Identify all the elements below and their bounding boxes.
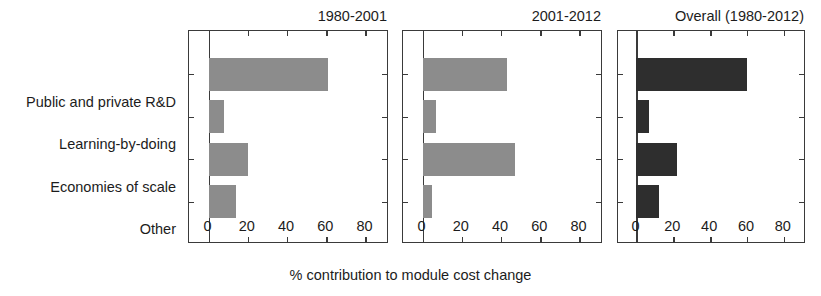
y-tick [617, 202, 623, 203]
panel-title-1: 2001-2012 [532, 9, 601, 24]
y-tick-right [799, 117, 805, 118]
x-tick-label: 20 [232, 219, 262, 234]
plot-area-0 [189, 31, 387, 242]
x-tick-top [673, 30, 674, 36]
x-tick-top [579, 30, 580, 36]
y-tick [188, 117, 194, 118]
y-tick [402, 117, 408, 118]
x-tick-label: 60 [524, 219, 554, 234]
category-label-1: Learning-by-doing [59, 137, 176, 152]
x-tick [747, 237, 748, 243]
panel-1980-2001: 1980-2001 [188, 30, 388, 243]
x-tick [423, 237, 424, 243]
y-tick [617, 74, 623, 75]
x-tick-label: 40 [694, 219, 724, 234]
x-tick-top [636, 30, 637, 36]
x-tick-label: 40 [485, 219, 515, 234]
plot-area-2 [618, 31, 804, 242]
bar [209, 143, 248, 176]
y-tick-right [382, 159, 388, 160]
y-tick-right [596, 202, 602, 203]
bar [636, 100, 649, 133]
y-tick [188, 202, 194, 203]
bar [209, 100, 225, 133]
x-tick [501, 237, 502, 243]
x-tick-label: 0 [407, 219, 437, 234]
y-tick-right [799, 159, 805, 160]
category-label-0: Public and private R&D [26, 95, 176, 110]
y-tick [617, 117, 623, 118]
x-tick [287, 237, 288, 243]
x-tick [673, 237, 674, 243]
x-tick [462, 237, 463, 243]
y-tick-right [382, 202, 388, 203]
x-tick-top [326, 30, 327, 36]
x-tick-top [747, 30, 748, 36]
bar [209, 58, 329, 91]
x-tick-top [540, 30, 541, 36]
y-tick [402, 159, 408, 160]
category-label-3: Other [140, 222, 176, 237]
x-tick-label: 80 [768, 219, 798, 234]
x-tick-label: 80 [349, 219, 379, 234]
x-tick-top [462, 30, 463, 36]
x-tick-label: 60 [310, 219, 340, 234]
y-tick [188, 74, 194, 75]
x-tick-label: 20 [657, 219, 687, 234]
y-tick-right [596, 117, 602, 118]
panel-2001-2012: 2001-2012 [402, 30, 602, 243]
x-tick-top [784, 30, 785, 36]
x-tick-top [501, 30, 502, 36]
x-tick-top [209, 30, 210, 36]
y-tick-right [596, 159, 602, 160]
x-tick-top [365, 30, 366, 36]
y-tick [617, 159, 623, 160]
x-tick [579, 237, 580, 243]
x-tick-top [248, 30, 249, 36]
x-tick [636, 237, 637, 243]
bar [636, 143, 677, 176]
y-tick-right [799, 202, 805, 203]
x-tick-top [287, 30, 288, 36]
x-tick-label: 60 [731, 219, 761, 234]
y-tick [188, 159, 194, 160]
y-tick-right [382, 74, 388, 75]
x-tick-label: 20 [446, 219, 476, 234]
x-tick-label: 40 [271, 219, 301, 234]
category-axis-labels: Public and private R&D Learning-by-doing… [0, 30, 182, 243]
x-tick-top [423, 30, 424, 36]
x-tick [209, 237, 210, 243]
x-tick-top [710, 30, 711, 36]
x-axis-title: % contribution to module cost change [0, 268, 821, 283]
x-tick-label: 80 [563, 219, 593, 234]
bar [209, 185, 236, 218]
panel-title-0: 1980-2001 [318, 9, 387, 24]
chart-figure: Public and private R&D Learning-by-doing… [0, 0, 821, 296]
plot-area-1 [403, 31, 601, 242]
y-tick-right [382, 117, 388, 118]
x-tick [248, 237, 249, 243]
bar [423, 100, 437, 133]
bar [423, 185, 433, 218]
panel-overall-1980-2012: Overall (1980-2012) [617, 30, 805, 243]
x-tick [540, 237, 541, 243]
x-tick [710, 237, 711, 243]
y-tick [402, 202, 408, 203]
x-tick-label: 0 [193, 219, 223, 234]
y-tick [402, 74, 408, 75]
bar [636, 58, 747, 91]
x-tick-label: 0 [620, 219, 650, 234]
bar [636, 185, 658, 218]
x-tick [326, 237, 327, 243]
bar [423, 143, 515, 176]
y-tick-right [596, 74, 602, 75]
x-tick [365, 237, 366, 243]
x-tick [784, 237, 785, 243]
y-tick-right [799, 74, 805, 75]
panel-title-2: Overall (1980-2012) [675, 9, 804, 24]
bar [423, 58, 507, 91]
category-label-2: Economies of scale [50, 180, 176, 195]
